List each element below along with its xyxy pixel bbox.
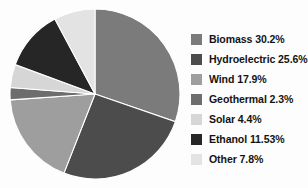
legend-swatch-wind [191,74,202,85]
legend-label-biomass: Biomass 30.2% [209,34,285,45]
legend-swatch-ethanol [191,134,202,145]
legend-swatch-hydroelectric [191,54,202,65]
legend-item-hydroelectric[interactable]: Hydroelectric 25.6% [191,49,308,69]
pie-chart-svg [9,5,183,183]
legend-item-biomass[interactable]: Biomass 30.2% [191,29,308,49]
legend-item-solar[interactable]: Solar 4.4% [191,109,308,129]
legend-swatch-other [191,154,202,165]
legend-item-ethanol[interactable]: Ethanol 11.53% [191,129,308,149]
pie-slice-group [10,9,180,179]
legend-item-wind[interactable]: Wind 17.9% [191,69,308,89]
legend-swatch-solar [191,114,202,125]
legend-label-hydroelectric: Hydroelectric 25.6% [209,54,308,65]
legend-label-solar: Solar 4.4% [209,114,261,125]
legend-label-other: Other 7.8% [209,154,263,165]
pie-chart-plot-area [9,5,183,183]
legend-label-geothermal: Geothermal 2.3% [209,94,293,105]
pie-chart-figure: Biomass 30.2% Hydroelectric 25.6% Wind 1… [0,0,308,188]
legend-swatch-geothermal [191,94,202,105]
legend-swatch-biomass [191,34,202,45]
legend-label-wind: Wind 17.9% [209,74,267,85]
chart-legend: Biomass 30.2% Hydroelectric 25.6% Wind 1… [191,29,308,177]
legend-item-geothermal[interactable]: Geothermal 2.3% [191,89,308,109]
legend-label-ethanol: Ethanol 11.53% [209,134,285,145]
legend-item-other[interactable]: Other 7.8% [191,149,308,169]
